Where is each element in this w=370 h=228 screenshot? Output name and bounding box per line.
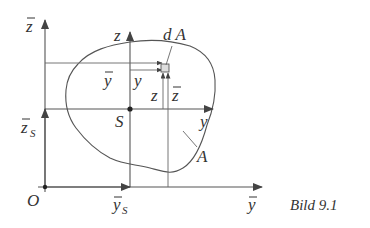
label-ybar-inner: y (102, 71, 112, 90)
dA-leader (166, 46, 172, 65)
label-zS: z (20, 118, 28, 137)
centroid-point-S (127, 106, 132, 111)
origin-point-O (43, 185, 47, 189)
label-yS: y (111, 195, 121, 214)
label-zS-sub: S (30, 127, 36, 139)
label-A: A (196, 147, 208, 166)
label-z-axis: z (113, 26, 121, 45)
label-O: O (27, 191, 39, 210)
label-ybar-axis: y (246, 195, 256, 214)
A-leader (183, 131, 197, 147)
area-contour (66, 40, 215, 172)
label-dA: d A (163, 25, 186, 44)
label-zbar-axis: z (25, 17, 33, 36)
label-yS-sub: S (122, 204, 128, 216)
label-y-inner: y (132, 71, 142, 90)
label-zbar-inner: z (171, 86, 179, 105)
label-z-inner: z (150, 86, 158, 105)
centroid-diagram: z z d A y y z z S z S y A O y S y Bild 9… (0, 0, 370, 228)
label-S: S (115, 112, 124, 131)
figure-caption: Bild 9.1 (290, 197, 338, 213)
dA-element (161, 64, 169, 72)
label-y-axis: y (198, 112, 208, 131)
